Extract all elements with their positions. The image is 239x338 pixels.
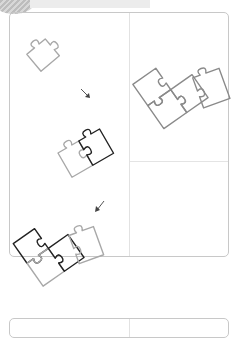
header-band — [30, 0, 150, 8]
column-divider — [129, 319, 130, 337]
arrow-down-right-icon — [80, 88, 92, 100]
next-panel — [9, 318, 229, 338]
row-divider — [130, 161, 228, 162]
puzzle-group-icon — [130, 48, 234, 138]
puzzle-trio-icon — [12, 212, 108, 292]
puzzle-pair-icon — [58, 128, 120, 178]
puzzle-piece-icon — [24, 35, 64, 71]
